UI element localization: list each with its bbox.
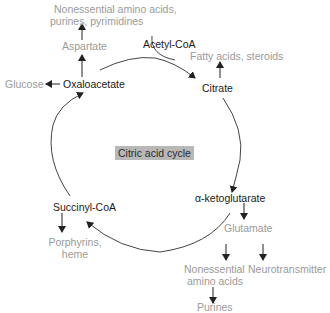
purines-pyrimidines: purines, pyrimidines: [50, 15, 143, 27]
oxaloacetate-label: Oxaloacetate: [63, 78, 125, 90]
arc-citrate-to-akg: [223, 98, 241, 192]
heme-label: heme: [45, 248, 105, 260]
citrate-label: Citrate: [202, 82, 233, 94]
nonessential-amino-acids-top: Nonessential amino acids,: [54, 3, 177, 15]
arc-akg-to-succinyl: [87, 213, 230, 252]
arc-succinyl-to-oxalo: [51, 93, 83, 196]
succinyl-coa-label: Succinyl-CoA: [53, 201, 116, 213]
porphyrins-label: Porphyrins,: [45, 236, 105, 248]
acetyl-coa-label: Acetyl-CoA: [143, 38, 196, 50]
alpha-ketoglutarate-label: α-ketoglutarate: [195, 192, 265, 204]
cycle-title: Citric acid cycle: [115, 146, 194, 160]
amino-acids-bottom-label: amino acids: [187, 275, 243, 287]
fatty-acids-label: Fatty acids, steroids: [190, 50, 283, 62]
arc-acetyl-to-citrate: [100, 58, 195, 79]
neurotransmitter-label: Neurotransmitter: [248, 263, 326, 275]
purines-bottom-label: Purines: [197, 301, 233, 313]
nonessential-bottom-label: Nonessential: [184, 263, 245, 275]
glutamate-label: Glutamate: [224, 222, 272, 234]
glucose-label: Glucose: [5, 78, 44, 90]
aspartate-label: Aspartate: [62, 40, 107, 52]
